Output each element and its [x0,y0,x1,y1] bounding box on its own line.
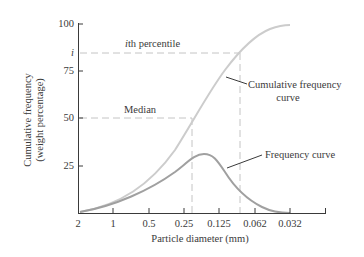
x-tick-1: 1 [110,218,115,229]
particle-size-chart: 100 i 75 50 25 2 1 0.5 0.25 0.125 0.062 … [0,0,364,257]
x-tick-0.25: 0.25 [175,218,193,229]
x-tick-0.032: 0.032 [278,218,302,229]
ith-percentile-label: ith percentile [125,38,180,49]
median-label: Median [124,104,157,115]
x-tick-0.062: 0.062 [243,218,267,229]
x-tick-2: 2 [75,218,80,229]
y-axis-title-line1: Cumulative frequency [22,72,33,166]
cumulative-curve-label-line2: curve [276,92,300,103]
x-axis-title: Particle diameter (mm) [151,233,249,245]
y-tick-50: 50 [64,112,75,123]
frequency-curve-label: Frequency curve [265,149,336,160]
y-tick-25: 25 [64,160,75,171]
frequency-curve [80,154,290,213]
cumulative-leader-line [226,77,247,84]
x-tick-0.5: 0.5 [142,218,155,229]
x-tick-0.125: 0.125 [207,218,231,229]
frequency-leader-line [227,155,262,168]
y-tick-i: i [71,47,74,58]
x-tick-labels: 2 1 0.5 0.25 0.125 0.062 0.032 [75,218,301,229]
ith-percentile-text: th percentile [128,38,181,49]
y-axis-title: Cumulative frequency (weight percentage) [22,72,46,166]
y-tick-100: 100 [58,18,74,29]
cumulative-curve-label-line1: Cumulative frequency [248,79,342,90]
y-tick-75: 75 [64,65,75,76]
y-tick-labels: 100 i 75 50 25 [58,18,74,171]
reference-lines [80,53,240,213]
y-axis-title-line2: (weight percentage) [34,78,46,162]
